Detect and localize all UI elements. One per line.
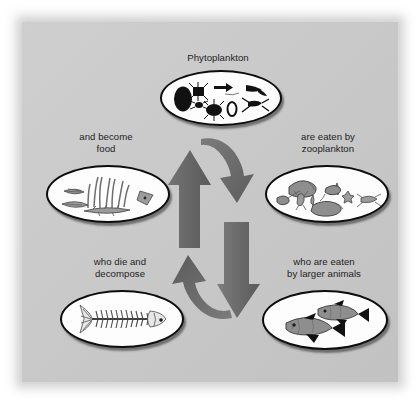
arrow-become-food-to-phytoplankton (166, 150, 214, 248)
oval-phytoplankton (160, 70, 282, 126)
two-fish-illustration (264, 292, 386, 348)
oval-larger-animals (262, 290, 388, 350)
label-become-food: and become food (36, 131, 176, 156)
label-zooplankton: are eaten by zooplankton (258, 131, 398, 156)
node-phytoplankton: Phytoplankton (148, 52, 288, 124)
seaweed-detritus-illustration (48, 167, 168, 221)
node-zooplankton: are eaten by zooplankton (258, 131, 398, 227)
oval-decompose (60, 290, 184, 348)
oval-become-food (46, 165, 170, 223)
fish-skeleton-illustration (62, 292, 182, 346)
food-chain-diagram: Phytoplankton (0, 0, 418, 407)
node-larger-animals: who are eaten by larger animals (250, 256, 398, 356)
arrow-larger-animals-to-decompose (168, 248, 234, 320)
phytoplankton-illustration (162, 72, 280, 124)
label-phytoplankton: Phytoplankton (148, 52, 288, 64)
oval-zooplankton (265, 165, 389, 223)
zooplankton-illustration (267, 167, 387, 221)
label-larger-animals: who are eaten by larger animals (250, 256, 398, 281)
node-become-food: and become food (36, 131, 176, 227)
